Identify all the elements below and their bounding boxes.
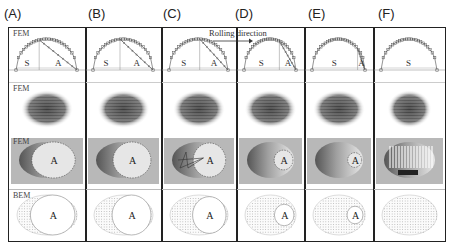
svg-text:A: A <box>352 155 360 166</box>
traction-profile-plot: SA <box>305 28 373 81</box>
slip-map <box>374 136 445 188</box>
column-label-c: (C) <box>163 6 181 21</box>
svg-text:A: A <box>352 210 360 221</box>
arrow-right-icon <box>213 38 253 44</box>
bem-slip-map: BEMA <box>9 189 85 242</box>
svg-text:A: A <box>285 58 292 68</box>
slip-map: A <box>162 136 236 188</box>
svg-text:A: A <box>129 155 137 166</box>
row-label: FEM <box>13 137 29 146</box>
svg-text:A: A <box>55 58 62 68</box>
rolling-direction-label: Rolling direction <box>209 28 267 44</box>
svg-text:A: A <box>50 210 58 221</box>
slip-map: A <box>237 136 304 188</box>
svg-text:A: A <box>206 210 214 221</box>
svg-text:S: S <box>259 58 264 68</box>
pressure-map <box>305 82 373 136</box>
pressure-map <box>237 82 304 136</box>
svg-text:A: A <box>211 58 218 68</box>
svg-text:S: S <box>181 58 186 68</box>
slip-map: A <box>305 136 373 188</box>
row-label: FEM <box>13 29 29 38</box>
svg-text:A: A <box>129 210 137 221</box>
traction-profile-plot: FEMSA <box>9 28 85 81</box>
svg-text:S: S <box>406 58 411 68</box>
rolling-direction-text: Rolling direction <box>209 28 267 38</box>
bem-slip-map: A <box>162 189 236 242</box>
bem-slip-map <box>374 189 445 242</box>
column-label-f: (F) <box>378 6 395 21</box>
traction-profile-plot: SA <box>86 28 161 81</box>
traction-profile-plot: S <box>374 28 445 81</box>
pressure-map <box>162 82 236 136</box>
svg-text:A: A <box>281 210 289 221</box>
row-label: FEM <box>13 84 29 93</box>
pressure-map <box>374 82 445 136</box>
slip-map: FEMA <box>9 136 85 188</box>
svg-text:S: S <box>332 58 337 68</box>
column-label-d: (D) <box>235 6 253 21</box>
svg-text:A: A <box>206 155 214 166</box>
svg-text:A: A <box>134 58 141 68</box>
column-label-e: (E) <box>308 6 325 21</box>
bem-slip-map: A <box>305 189 373 242</box>
svg-text:A: A <box>281 155 289 166</box>
svg-text:S: S <box>104 58 109 68</box>
slip-map: A <box>86 136 161 188</box>
bem-slip-map: A <box>86 189 161 242</box>
column-label-b: (B) <box>88 6 105 21</box>
pressure-map: FEM <box>9 82 85 136</box>
row-label: BEM <box>13 191 30 200</box>
column-label-a: (A) <box>4 6 21 21</box>
svg-text:A: A <box>358 58 365 68</box>
pressure-map <box>86 82 161 136</box>
svg-text:S: S <box>25 58 30 68</box>
bem-slip-map: A <box>237 189 304 242</box>
svg-text:A: A <box>50 155 58 166</box>
